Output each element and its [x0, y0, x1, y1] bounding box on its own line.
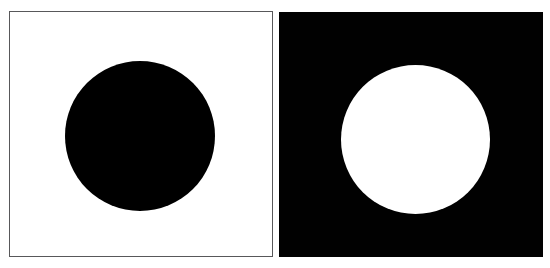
black-disc-shape — [65, 61, 215, 211]
figure-root: Black disc on white field and white disc… — [0, 0, 550, 268]
panel-white-disc-on-black — [279, 12, 543, 257]
white-disc-shape — [341, 65, 490, 214]
panel-black-disc-on-white — [9, 11, 273, 257]
